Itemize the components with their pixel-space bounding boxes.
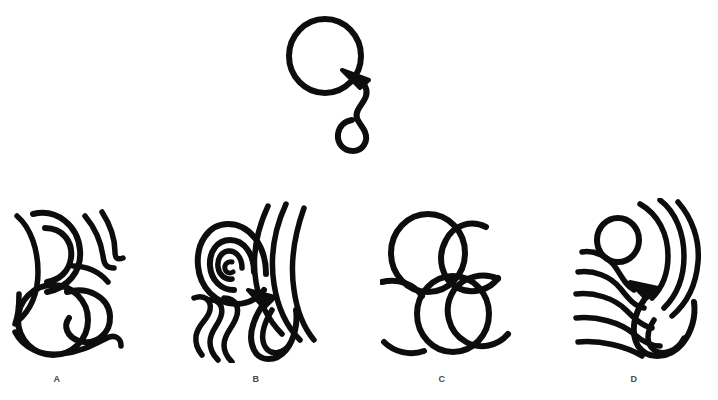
option-c-arc-left-stub: [382, 281, 422, 296]
prompt-large-circle: [289, 19, 361, 93]
option-b-wavy-3: [224, 298, 238, 362]
prompt-figure: [270, 8, 430, 173]
option-a-left-short-arc: [15, 294, 19, 324]
option-a[interactable]: [5, 198, 150, 363]
option-d-svg[interactable]: [572, 198, 717, 363]
option-c[interactable]: [380, 198, 525, 363]
option-a-hook-inner: [102, 212, 123, 259]
prompt-s-curve-tail: [338, 86, 367, 151]
figure-canvas: A B: [0, 0, 718, 400]
option-b-svg[interactable]: [190, 198, 335, 363]
option-a-crescent-inner: [45, 228, 71, 282]
option-b-label: B: [246, 374, 266, 384]
option-d[interactable]: [572, 198, 717, 363]
option-a-label: A: [47, 374, 67, 384]
option-d-arc-right-2: [660, 200, 684, 308]
option-d-arc-5: [578, 342, 642, 356]
option-a-mid-arc: [73, 266, 108, 282]
option-d-teardrop-inner: [648, 320, 684, 353]
option-b-spiral-core: [225, 262, 233, 273]
option-c-label: C: [432, 374, 452, 384]
option-c-svg[interactable]: [380, 198, 525, 363]
option-c-arc-bottom-stub: [384, 342, 424, 353]
option-b[interactable]: [190, 198, 335, 363]
prompt-figure-svg: [270, 8, 430, 173]
option-d-label: D: [624, 374, 644, 384]
option-a-svg[interactable]: [5, 198, 150, 363]
